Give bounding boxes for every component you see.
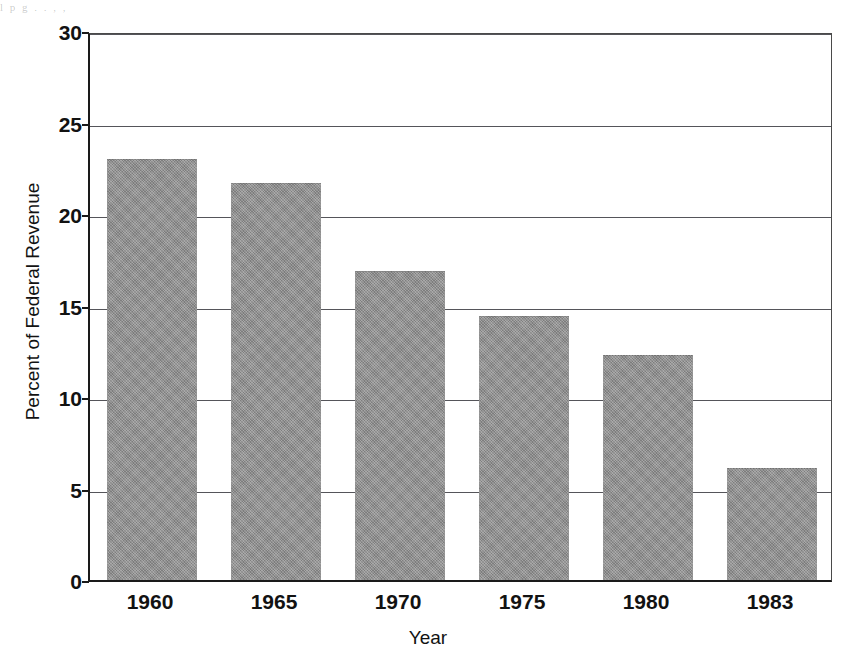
y-tick-mark-0: [82, 581, 89, 583]
bar-1970: [355, 271, 444, 580]
x-tick-label-1960: 1960: [90, 590, 210, 614]
y-axis-label: Percent of Federal Revenue: [23, 102, 42, 502]
bar-1983: [727, 468, 816, 580]
bar-1965: [231, 183, 320, 580]
bar-1960: [107, 159, 196, 580]
y-tick-label-20: 20: [40, 205, 82, 226]
bar-1975: [479, 316, 568, 580]
y-tick-mark-5: [82, 490, 89, 492]
y-tick-mark-20: [82, 215, 89, 217]
y-tick-label-30: 30: [40, 22, 82, 43]
y-tick-mark-25: [82, 124, 89, 126]
y-tick-mark-15: [82, 307, 89, 309]
bars-layer: [90, 34, 831, 580]
y-tick-label-10: 10: [40, 388, 82, 409]
x-tick-label-1980: 1980: [586, 590, 706, 614]
y-tick-mark-30: [82, 32, 89, 34]
x-tick-label-1983: 1983: [710, 590, 830, 614]
y-tick-label-5: 5: [40, 480, 82, 501]
x-tick-label-1970: 1970: [338, 590, 458, 614]
plot-area: [88, 33, 832, 582]
x-axis-label: Year: [0, 628, 856, 648]
bar-1980: [603, 355, 692, 580]
y-tick-label-0: 0: [40, 571, 82, 592]
y-tick-label-25: 25: [40, 114, 82, 135]
bar-chart-figure: 051015202530 Percent of Federal Revenue …: [0, 0, 856, 661]
y-tick-label-15: 15: [40, 297, 82, 318]
x-tick-label-1975: 1975: [462, 590, 582, 614]
x-tick-label-1965: 1965: [214, 590, 334, 614]
y-tick-mark-10: [82, 398, 89, 400]
